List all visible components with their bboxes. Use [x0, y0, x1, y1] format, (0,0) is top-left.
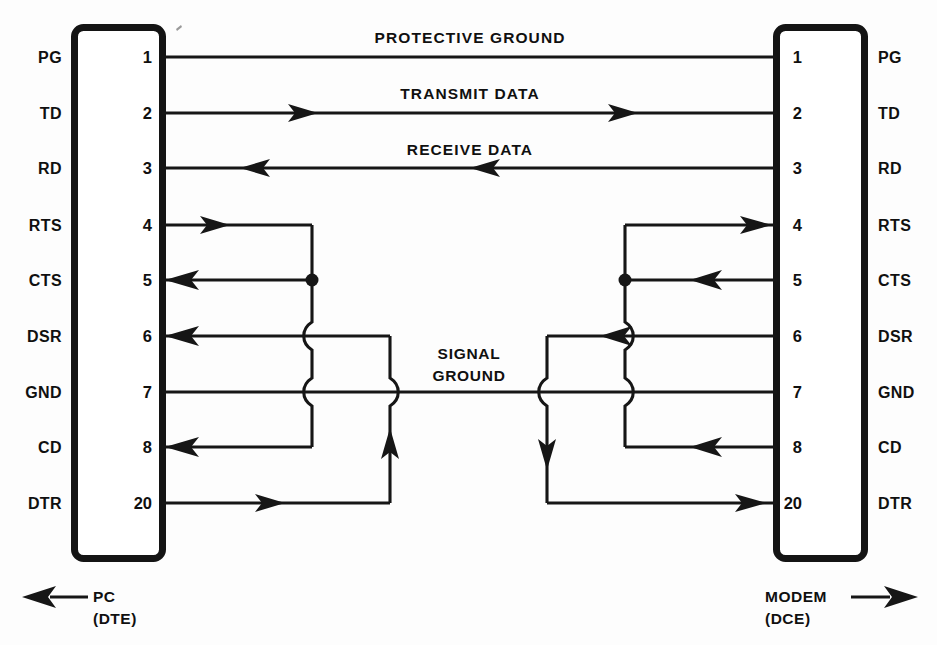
signal-label-left-dtr: DTR	[28, 495, 62, 512]
pin-number-right: 6	[793, 327, 802, 345]
left-endpoint-name: PC	[93, 588, 116, 605]
signal-label-left-rd: RD	[38, 160, 62, 177]
signal-label-left-dsr: DSR	[27, 328, 62, 345]
scan-artifact-speck	[176, 25, 182, 31]
pin-number-right: 4	[793, 216, 803, 234]
signal-label-left-gnd: GND	[25, 384, 62, 401]
signal-label-left-rts: RTS	[29, 217, 62, 234]
pin-number-left: 6	[143, 327, 152, 345]
right-connector-box	[777, 28, 865, 559]
pin-number-right: 2	[793, 104, 802, 122]
wire-label-protective-ground: PROTECTIVE GROUND	[375, 29, 566, 46]
junction-dot	[306, 274, 319, 287]
signal-label-right-cts: CTS	[878, 272, 911, 289]
pin-number-left: 5	[143, 271, 152, 289]
signal-label-left-td: TD	[40, 105, 62, 122]
signal-label-left-cd: CD	[38, 439, 62, 456]
left-outer-bus	[390, 336, 398, 503]
signal-label-right-rts: RTS	[878, 217, 911, 234]
signal-label-right-td: TD	[878, 105, 900, 122]
wire-label-transmit-data: TRANSMIT DATA	[400, 85, 539, 102]
pin-number-right: 8	[793, 438, 802, 456]
wiring-schematic-svg: 1 2 3 4 5 6 7 8 20 1 2 3 4 5 6 7 8 20 PG…	[0, 0, 937, 645]
signal-label-right-gnd: GND	[878, 384, 915, 401]
signal-label-right-cd: CD	[878, 439, 902, 456]
left-endpoint-type: (DTE)	[93, 610, 137, 627]
pin-number-left: 20	[134, 494, 152, 512]
right-endpoint-name: MODEM	[765, 588, 827, 605]
signal-label-right-dtr: DTR	[878, 495, 912, 512]
signal-label-right-pg: PG	[878, 49, 902, 66]
wire-label-signal-ground-line1: SIGNAL	[438, 345, 501, 362]
pin-number-right: 20	[784, 494, 802, 512]
pin-number-right: 3	[793, 159, 802, 177]
wire-label-signal-ground-line2: GROUND	[432, 367, 505, 384]
pin-number-right: 1	[793, 48, 802, 66]
pin-number-left: 7	[143, 383, 152, 401]
pin-number-left: 2	[143, 104, 152, 122]
pin-number-left: 4	[143, 216, 153, 234]
pin-number-left: 8	[143, 438, 152, 456]
right-outer-bus	[539, 336, 547, 503]
pin-number-right: 5	[793, 271, 802, 289]
signal-label-left-pg: PG	[38, 49, 62, 66]
pin-number-left: 3	[143, 159, 152, 177]
pin-number-right: 7	[793, 383, 802, 401]
signal-label-right-rd: RD	[878, 160, 902, 177]
rs232-wiring-diagram: 1 2 3 4 5 6 7 8 20 1 2 3 4 5 6 7 8 20 PG…	[0, 0, 937, 645]
signal-label-left-cts: CTS	[29, 272, 62, 289]
pin-number-left: 1	[143, 48, 152, 66]
junction-dot	[619, 274, 632, 287]
right-endpoint-type: (DCE)	[765, 610, 811, 627]
wire-label-receive-data: RECEIVE DATA	[407, 141, 533, 158]
signal-label-right-dsr: DSR	[878, 328, 913, 345]
